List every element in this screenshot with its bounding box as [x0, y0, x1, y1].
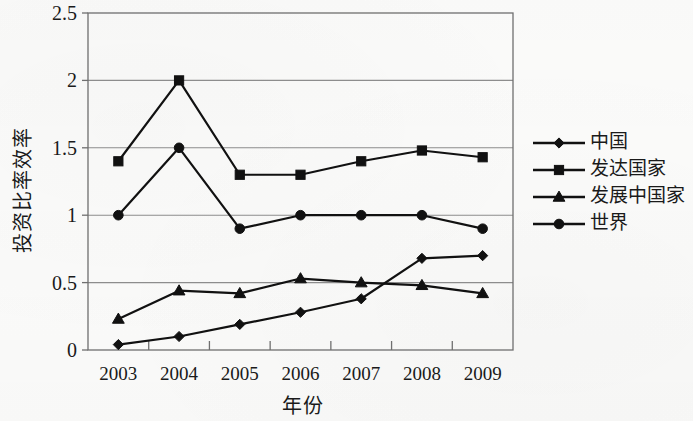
x-tick-label-2008: 2008 — [392, 364, 452, 383]
data-point — [174, 76, 183, 85]
investment-efficiency-line-chart: 0 0.5 1 1.5 2 2.5 2003 2004 2005 2006 20… — [0, 0, 693, 421]
plot-frame — [82, 13, 513, 350]
y-tick-label-0: 0 — [29, 340, 77, 360]
legend-label-china: 中国 — [590, 132, 628, 151]
data-point — [478, 224, 488, 234]
data-point — [417, 146, 426, 155]
data-point — [113, 340, 123, 350]
data-point — [235, 170, 244, 179]
y-tick-label-3: 1.5 — [29, 138, 77, 158]
legend-label-developing: 发展中国家 — [590, 186, 685, 205]
data-point — [114, 210, 124, 220]
data-point — [417, 210, 427, 220]
legend-item-china — [533, 138, 585, 148]
y-tick-label-5: 2.5 — [29, 3, 77, 23]
x-tick-label-2004: 2004 — [149, 364, 209, 383]
data-point — [114, 157, 123, 166]
legend-marker-square — [554, 165, 563, 174]
legend-marker-circle — [554, 219, 564, 229]
x-tick-label-2007: 2007 — [331, 364, 391, 383]
data-point — [356, 210, 366, 220]
legend-item-world — [533, 219, 585, 229]
y-axis-title: 投资比率效率 — [7, 125, 36, 255]
data-point — [478, 153, 487, 162]
series-world — [114, 143, 488, 233]
series-china — [113, 251, 487, 350]
x-tick-label-2005: 2005 — [210, 364, 270, 383]
data-point — [235, 224, 245, 234]
data-point — [296, 210, 306, 220]
data-point — [357, 157, 366, 166]
y-tick-label-2: 1 — [29, 205, 77, 225]
y-tick-label-1: 0.5 — [29, 273, 77, 293]
data-point — [478, 251, 488, 261]
legend — [533, 138, 585, 229]
data-point — [295, 307, 305, 317]
legend-label-developed: 发达国家 — [590, 159, 666, 178]
series-developed — [114, 76, 487, 180]
data-point — [174, 143, 184, 153]
x-tick-label-2006: 2006 — [271, 364, 331, 383]
legend-marker-diamond — [554, 138, 564, 148]
legend-item-developed — [533, 165, 585, 174]
x-axis-title: 年份 — [228, 390, 378, 419]
gridlines — [88, 80, 513, 282]
y-tick-label-4: 2 — [29, 70, 77, 90]
x-tick-label-2003: 2003 — [88, 364, 148, 383]
legend-item-developing — [533, 191, 585, 201]
data-point — [174, 331, 184, 341]
x-tick-label-2009: 2009 — [453, 364, 513, 383]
data-point — [296, 170, 305, 179]
data-point — [235, 319, 245, 329]
legend-label-world: 世界 — [590, 213, 628, 232]
